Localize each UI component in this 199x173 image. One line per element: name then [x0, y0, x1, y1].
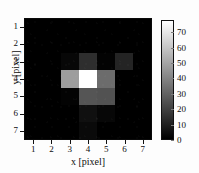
- y-tick-label: 6: [4, 109, 18, 118]
- x-tick-label: 1: [26, 145, 40, 154]
- colorbar-tick-mark: [171, 140, 174, 141]
- colorbar-tick-mark: [171, 32, 174, 33]
- y-tick-mark: [20, 44, 24, 45]
- heatmap-cell: [97, 53, 115, 70]
- heatmap-cell: [97, 88, 115, 105]
- heatmap-cell: [43, 70, 61, 87]
- heatmap-cell: [97, 36, 115, 53]
- heatmap-cell: [79, 36, 97, 53]
- heatmap-cell: [25, 70, 43, 87]
- heatmap-cell: [61, 53, 79, 70]
- heatmap-cell: [115, 36, 133, 53]
- x-tick-label: 6: [118, 145, 132, 154]
- heatmap-cell: [115, 53, 133, 70]
- x-tick-label: 2: [44, 145, 58, 154]
- heatmap-cell: [115, 70, 133, 87]
- heatmap-cell: [25, 105, 43, 122]
- heatmap-cell: [79, 105, 97, 122]
- y-axis-label: y [pixel]: [10, 28, 21, 108]
- heatmap-cell: [133, 105, 151, 122]
- x-axis-label: x [pixel]: [24, 156, 152, 167]
- x-tick-label: 4: [81, 145, 95, 154]
- colorbar-tick-label: 20: [177, 105, 186, 114]
- heatmap-cell: [115, 105, 133, 122]
- heatmap-cell: [61, 19, 79, 36]
- heatmap-cell: [79, 70, 97, 87]
- colorbar-tick-label: 50: [177, 59, 186, 68]
- heatmap-cell: [133, 88, 151, 105]
- heatmap-cell: [43, 36, 61, 53]
- heatmap-cell: [25, 36, 43, 53]
- heatmap-cell: [25, 19, 43, 36]
- colorbar-tick-mark: [171, 109, 174, 110]
- colorbar-tick-label: 40: [177, 74, 186, 83]
- heatmap-cell: [97, 105, 115, 122]
- heatmap-cell: [97, 19, 115, 36]
- heatmap-cell: [61, 70, 79, 87]
- heatmap-cell: [97, 70, 115, 87]
- heatmap-cell: [133, 36, 151, 53]
- colorbar-tick-mark: [171, 94, 174, 95]
- y-tick-mark: [20, 27, 24, 28]
- heatmap-cell: [79, 53, 97, 70]
- heatmap-cell: [97, 122, 115, 139]
- colorbar-tick-label: 0: [177, 136, 182, 145]
- heatmap-cell: [43, 19, 61, 36]
- heatmap-cell: [79, 19, 97, 36]
- y-tick-mark: [20, 62, 24, 63]
- colorbar-tick-mark: [171, 78, 174, 79]
- y-tick-mark: [20, 131, 24, 132]
- heatmap-cell: [115, 122, 133, 139]
- heatmap-cell: [43, 53, 61, 70]
- plot-area: [24, 18, 152, 140]
- colorbar-tick-label: 60: [177, 44, 186, 53]
- heatmap-cell: [133, 53, 151, 70]
- heatmap-cell: [61, 105, 79, 122]
- colorbar-tick-label: 70: [177, 28, 186, 37]
- heatmap-cell: [25, 88, 43, 105]
- heatmap-cell: [133, 19, 151, 36]
- heatmap-cell: [25, 53, 43, 70]
- colorbar: [161, 20, 174, 140]
- heatmap-cell: [79, 88, 97, 105]
- heatmap-cell: [61, 122, 79, 139]
- heatmap-cell: [115, 88, 133, 105]
- colorbar-tick-mark: [171, 125, 174, 126]
- y-tick-label: 7: [4, 126, 18, 135]
- heatmap-cell: [43, 88, 61, 105]
- y-tick-mark: [20, 96, 24, 97]
- x-tick-label: 5: [99, 145, 113, 154]
- heatmap-cell: [43, 105, 61, 122]
- x-tick-label: 7: [136, 145, 150, 154]
- heatmap-cell: [79, 122, 97, 139]
- heatmap-cell: [61, 36, 79, 53]
- colorbar-tick-mark: [171, 63, 174, 64]
- y-tick-mark: [20, 79, 24, 80]
- heatmap-figure: 1234567 1234567 x [pixel] y [pixel] 0102…: [0, 0, 199, 173]
- heatmap-grid: [25, 19, 151, 139]
- colorbar-tick-mark: [171, 48, 174, 49]
- heatmap-cell: [25, 122, 43, 139]
- heatmap-cell: [133, 70, 151, 87]
- heatmap-cell: [115, 19, 133, 36]
- x-tick-label: 3: [63, 145, 77, 154]
- heatmap-cell: [133, 122, 151, 139]
- colorbar-tick-label: 10: [177, 121, 186, 130]
- heatmap-cell: [61, 88, 79, 105]
- colorbar-tick-label: 30: [177, 90, 186, 99]
- colorbar-gradient: [162, 21, 173, 139]
- y-tick-mark: [20, 114, 24, 115]
- heatmap-cell: [43, 122, 61, 139]
